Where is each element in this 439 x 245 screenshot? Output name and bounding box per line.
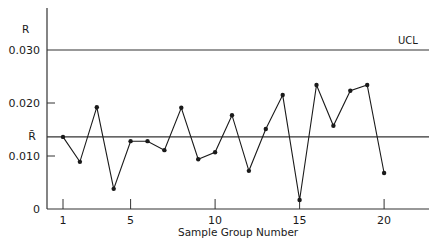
data-point xyxy=(348,89,352,93)
data-point xyxy=(264,127,268,131)
r-chart-plot: 00.0100.0200.03015101520 R Sample Group … xyxy=(0,0,439,245)
control-chart: 00.0100.0200.03015101520 R Sample Group … xyxy=(0,0,439,245)
data-point xyxy=(145,139,149,143)
data-point xyxy=(230,113,234,117)
x-tick-label: 1 xyxy=(60,214,67,227)
reference-lines xyxy=(47,50,429,137)
y-tick-label: 0.020 xyxy=(9,97,41,110)
data-point xyxy=(162,148,166,152)
data-point xyxy=(297,198,301,202)
data-point xyxy=(95,105,99,109)
x-axis-title: Sample Group Number xyxy=(178,226,299,238)
chart-labels: R Sample Group Number UCL R̄ xyxy=(22,23,418,238)
data-point xyxy=(331,124,335,128)
data-point xyxy=(213,150,217,154)
ucl-label: UCL xyxy=(398,35,418,46)
data-point xyxy=(61,135,65,139)
data-point xyxy=(179,106,183,110)
rbar-label: R̄ xyxy=(28,130,36,143)
data-series xyxy=(61,83,387,202)
axes: 00.0100.0200.03015101520 xyxy=(9,8,430,227)
x-tick-label: 20 xyxy=(377,214,391,227)
data-point xyxy=(382,171,386,175)
y-tick-label: 0.010 xyxy=(9,150,41,163)
y-tick-label: 0 xyxy=(33,203,40,216)
y-tick-label: 0.030 xyxy=(9,44,41,57)
data-point xyxy=(247,169,251,173)
x-tick-label: 5 xyxy=(127,214,134,227)
data-point xyxy=(314,83,318,87)
data-point xyxy=(365,83,369,87)
series-line xyxy=(63,85,384,200)
y-axis-title: R xyxy=(22,23,29,35)
data-point xyxy=(196,157,200,161)
data-point xyxy=(128,139,132,143)
data-point xyxy=(78,160,82,164)
data-point xyxy=(112,187,116,191)
data-point xyxy=(281,93,285,97)
